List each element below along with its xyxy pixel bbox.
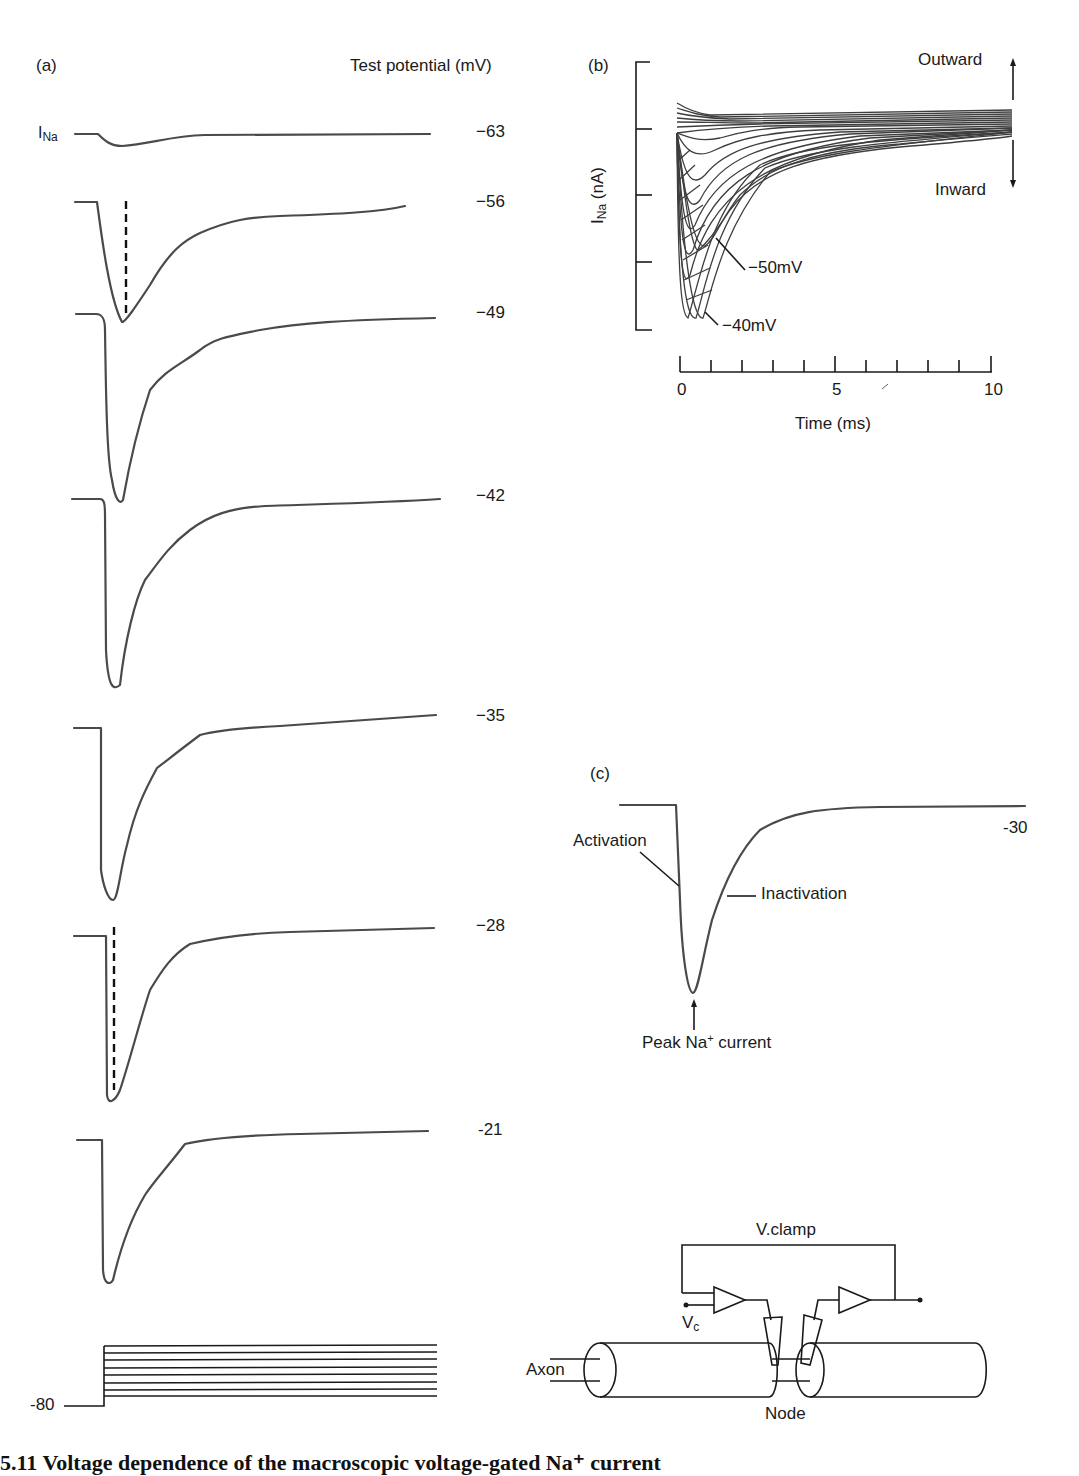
y-axis-label: INa (nA) [588,167,609,224]
vc-label: Vc [682,1313,699,1334]
potential-label: −56 [476,192,505,212]
trace-minus28 [74,928,434,1101]
node-label: Node [765,1404,806,1424]
trace-minus35 [74,715,436,900]
panel-c-label: (c) [590,764,610,784]
panel-b-traces [677,103,1012,325]
figure-caption: 5.11 Voltage dependence of the macroscop… [0,1450,661,1476]
x-tick-5: 5 [832,380,841,400]
x-tick-10: 10 [984,380,1003,400]
annotation-minus50mv: −50mV [748,258,802,278]
trace-minus21 [77,1131,428,1283]
ina-label: INa [38,124,58,144]
panel-b-axes [636,58,1016,389]
panel-c-potential: -30 [1003,818,1028,838]
panel-b-label: (b) [588,56,609,76]
outward-label: Outward [918,50,982,70]
inactivation-label: Inactivation [761,884,847,904]
stimulus-protocol [64,1345,437,1406]
trace-minus63 [75,134,430,146]
potential-label: −49 [476,303,505,323]
panel-a-traces [72,134,440,1283]
holding-potential-label: -80 [30,1395,55,1415]
test-potential-header: Test potential (mV) [350,56,492,76]
annotation-minus40mv: −40mV [722,316,776,336]
axon-label: Axon [526,1360,565,1380]
activation-label: Activation [573,831,647,851]
potential-label: −35 [476,706,505,726]
trace-minus49 [76,314,435,502]
inward-label: Inward [935,180,986,200]
x-axis-label: Time (ms) [795,414,871,434]
trace-minus56 [75,202,405,322]
potential-label: −63 [476,122,505,142]
voltage-clamp-schematic [550,1245,986,1397]
vclamp-label: V.clamp [756,1220,816,1240]
x-tick-0: 0 [677,380,686,400]
panel-c-trace [620,805,1025,1030]
trace-minus42 [72,499,440,687]
peak-current-label: Peak Na+ current [642,1032,771,1053]
panel-a-label: (a) [36,56,57,76]
potential-label: −42 [476,486,505,506]
potential-label: −28 [476,916,505,936]
potential-label: -21 [478,1120,503,1140]
